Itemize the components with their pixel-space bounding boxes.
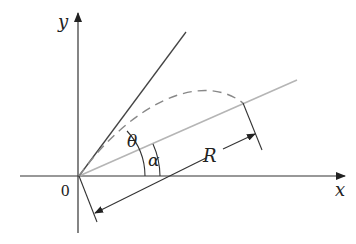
range-arrow-right [223,134,255,149]
incline-line [79,80,297,176]
launch-direction-line [79,32,186,176]
y-axis-label: y [57,11,69,32]
alpha-label: α [148,150,160,170]
x-axis-label: x [335,179,345,200]
origin-label: 0 [61,181,70,200]
projectile-incline-diagram: y x 0 θ α R [0,0,356,244]
range-start-tick [79,176,97,222]
range-label: R [202,145,217,166]
theta-label: θ [127,131,137,151]
trajectory-curve [79,90,243,176]
range-end-tick [243,103,262,150]
